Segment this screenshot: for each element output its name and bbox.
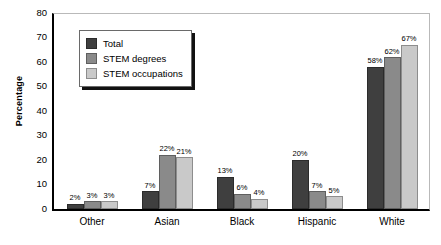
- bar[interactable]: [401, 45, 418, 209]
- bar[interactable]: [159, 155, 176, 209]
- x-axis-label: Other: [55, 216, 130, 227]
- medium-gray-swatch: [86, 53, 97, 64]
- bar[interactable]: [101, 201, 118, 208]
- y-axis-label: 70: [1, 32, 47, 42]
- bar[interactable]: [251, 199, 268, 209]
- x-axis-label: Hispanic: [280, 216, 355, 227]
- bar-value-label: 62%: [384, 48, 399, 56]
- bar-group: 58%62%67%: [355, 13, 430, 209]
- bar[interactable]: [326, 196, 343, 208]
- y-axis-label: 30: [1, 130, 47, 140]
- bar-value-label: 5%: [329, 187, 340, 195]
- x-axis-label: Asian: [130, 216, 205, 227]
- bar-value-label: 3%: [104, 192, 115, 200]
- y-axis-label: 20: [1, 155, 47, 165]
- bar-slot: 20%: [292, 13, 309, 209]
- legend-item[interactable]: STEM occupations: [86, 66, 183, 81]
- bar[interactable]: [67, 204, 84, 209]
- bar-value-label: 7%: [312, 182, 323, 190]
- x-axis-label: White: [355, 216, 430, 227]
- bar-slot: 13%: [217, 13, 234, 209]
- x-axis-label: Black: [205, 216, 280, 227]
- legend-item[interactable]: STEM degrees: [86, 51, 183, 66]
- y-axis-label: 50: [1, 81, 47, 91]
- bar-group: 20%7%5%: [280, 13, 355, 209]
- bar-value-label: 3%: [87, 192, 98, 200]
- bar-value-label: 58%: [367, 57, 382, 65]
- legend-item-label: Total: [103, 39, 123, 49]
- bar[interactable]: [217, 177, 234, 209]
- grouped-bar-chart: Percentage 01020304050607080 2%3%3%7%22%…: [0, 0, 441, 245]
- bar[interactable]: [367, 67, 384, 209]
- bar-slot: 5%: [326, 13, 343, 209]
- bar-slot: 58%: [367, 13, 384, 209]
- bar[interactable]: [384, 57, 401, 209]
- light-gray-swatch: [86, 68, 97, 79]
- bar[interactable]: [142, 191, 159, 208]
- bar-value-label: 2%: [70, 194, 81, 202]
- bar-value-label: 13%: [217, 167, 232, 175]
- bar-value-label: 4%: [254, 189, 265, 197]
- bar-value-label: 20%: [292, 150, 307, 158]
- y-axis-label: 40: [1, 106, 47, 116]
- bar-slot: 67%: [401, 13, 418, 209]
- bar-slot: 6%: [234, 13, 251, 209]
- legend-item-label: STEM degrees: [103, 54, 166, 64]
- dark-gray-swatch: [86, 38, 97, 49]
- bar[interactable]: [84, 201, 101, 208]
- bar-value-label: 22%: [159, 145, 174, 153]
- y-axis-label: 60: [1, 57, 47, 67]
- bar-slot: 62%: [384, 13, 401, 209]
- bar-group: 13%6%4%: [205, 13, 280, 209]
- bar-value-label: 7%: [145, 182, 156, 190]
- legend-item[interactable]: Total: [86, 36, 183, 51]
- legend-item-label: STEM occupations: [103, 69, 183, 79]
- bar[interactable]: [309, 191, 326, 208]
- bar-slot: 4%: [251, 13, 268, 209]
- bar-slot: 7%: [309, 13, 326, 209]
- chart-legend: TotalSTEM degreesSTEM occupations: [79, 30, 192, 87]
- bar[interactable]: [176, 157, 193, 208]
- y-axis-label: 10: [1, 179, 47, 189]
- bar-value-label: 67%: [401, 35, 416, 43]
- bar-value-label: 6%: [237, 184, 248, 192]
- bar[interactable]: [292, 160, 309, 209]
- bar[interactable]: [234, 194, 251, 209]
- bar-value-label: 21%: [176, 148, 191, 156]
- y-axis-label: 80: [1, 8, 47, 18]
- y-axis-label: 0: [1, 204, 47, 214]
